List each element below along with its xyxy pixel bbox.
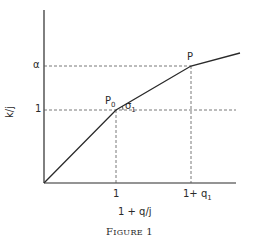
kj-curve bbox=[44, 53, 240, 183]
y-tick-alpha: α bbox=[33, 60, 40, 70]
x-tick-sublabel: 1 + q/j bbox=[118, 207, 152, 217]
angle-sigma-label: σ1 bbox=[125, 101, 136, 114]
y-tick-one: 1 bbox=[35, 104, 41, 114]
y-axis-label: k/j bbox=[4, 106, 15, 118]
figure-caption: FIGURE 1 bbox=[0, 226, 259, 237]
x-tick-q1: 1+ q1 bbox=[183, 189, 212, 202]
point-p-label: P bbox=[187, 52, 193, 62]
point-p0-label: P0 bbox=[105, 96, 116, 109]
x-tick-one: 1 bbox=[113, 189, 119, 199]
